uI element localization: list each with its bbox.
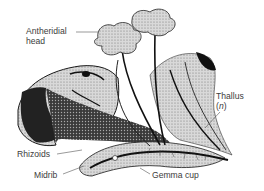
ploidy-symbol: n	[219, 101, 224, 111]
label-midrib: Midrib	[34, 170, 57, 180]
antheridial-heads	[95, 9, 176, 55]
label-thallus-ploidy: (n)	[216, 101, 244, 111]
leader-gemma-cup	[140, 168, 150, 174]
label-antheridial-line2: head	[26, 36, 67, 46]
label-antheridial-head: Antheridial head	[26, 26, 67, 46]
leader-rhizoids	[57, 150, 82, 154]
label-thallus: Thallus (n)	[216, 91, 244, 111]
label-thallus-line1: Thallus	[216, 91, 244, 101]
label-rhizoids: Rhizoids	[17, 149, 50, 159]
label-antheridial-line1: Antheridial	[26, 26, 67, 36]
label-gemma-cup: Gemma cup	[152, 170, 199, 180]
